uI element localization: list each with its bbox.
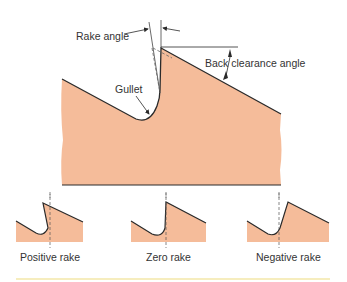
rake-angle-label: Rake angle [76, 30, 129, 42]
zero-rake-tooth [131, 192, 206, 248]
saw-tooth-diagram [0, 0, 347, 282]
positive-rake-tooth [16, 192, 83, 248]
zero-rake-label: Zero rake [146, 251, 191, 263]
back-clearance-angle-label: Back clearance angle [205, 57, 305, 69]
negative-rake-tooth [247, 192, 329, 248]
positive-rake-label: Positive rake [20, 251, 80, 263]
gullet-label: Gullet [115, 83, 142, 95]
negative-rake-label: Negative rake [256, 251, 321, 263]
